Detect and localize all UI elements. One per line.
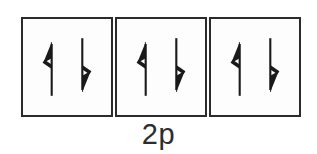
electron-up-arrow-2 [137,42,146,96]
orbital-box-1 [21,17,113,117]
electron-down-arrow-2 [176,38,185,92]
orbital-box-row [21,17,301,117]
electron-down-arrow-3 [270,38,279,92]
orbital-box-2 [115,17,207,117]
orbital-filling-diagram: 2p [0,0,317,154]
spin-pair-1 [23,19,111,115]
spin-pair-2 [117,19,205,115]
electron-down-arrow-1 [82,38,91,92]
spin-pair-3 [211,19,299,115]
subshell-label: 2p [0,118,317,150]
electron-up-arrow-3 [231,42,240,96]
orbital-box-3 [209,17,301,117]
electron-up-arrow-1 [43,42,52,96]
